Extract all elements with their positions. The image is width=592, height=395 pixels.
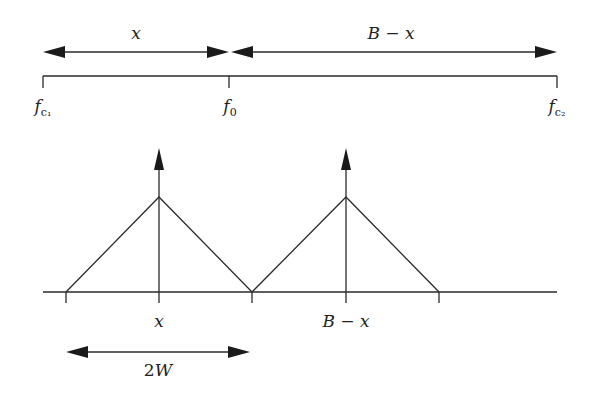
impulse-arrow-icon <box>154 148 164 170</box>
label-x-top: x <box>131 23 141 43</box>
label-x-peak: x <box>154 311 164 331</box>
label-f0: f0 <box>223 96 236 119</box>
frequency-bracket <box>43 76 557 88</box>
dimension-arrow-x <box>43 46 229 58</box>
label-b-minus-x-peak: B − x <box>322 311 369 331</box>
label-fc2: fc₂ <box>549 96 566 119</box>
dimension-arrow-b-minus-x <box>231 46 557 58</box>
frequency-axis <box>43 292 557 303</box>
dimension-arrow-2w <box>66 346 250 358</box>
label-b-minus-x-top: B − x <box>367 23 414 43</box>
spectrum-triangle-1 <box>66 148 252 292</box>
label-fc1: fc₁ <box>35 96 52 119</box>
spectrum-diagram: x B − x fc₁ f0 fc₂ x B − x 2W <box>0 0 592 395</box>
label-2w: 2W <box>144 360 172 380</box>
spectrum-triangle-2 <box>252 148 439 292</box>
diagram-graphics <box>0 0 592 395</box>
